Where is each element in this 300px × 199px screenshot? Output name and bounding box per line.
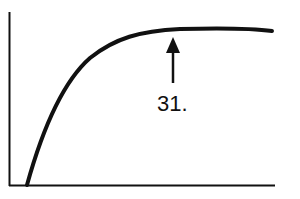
diagram-canvas: 31.	[0, 0, 300, 199]
annotation-label: 31.	[157, 93, 188, 115]
arrow-icon	[166, 37, 180, 83]
saturation-curve	[27, 28, 272, 185]
curve-diagram	[0, 0, 300, 199]
